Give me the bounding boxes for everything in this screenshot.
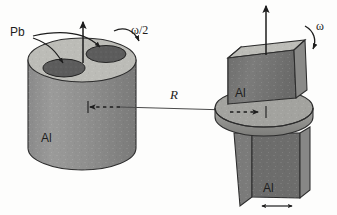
omega-label: ω	[316, 19, 324, 33]
right-rotation-arrow-icon	[305, 26, 315, 49]
omega-half-label: ω/2	[131, 23, 148, 37]
pb-label: Pb	[10, 25, 25, 39]
lower-block-shoulder	[300, 127, 310, 198]
right-assembly-group: Al Al ω	[215, 6, 324, 206]
upper-block-right-face	[294, 40, 307, 98]
upper-block-al-label: Al	[235, 86, 246, 100]
radius-label: R	[169, 87, 178, 102]
pb-inclusion-left-texture	[43, 59, 85, 77]
lower-block-front-texture	[252, 133, 300, 198]
left-cylinder-group: Pb Al ω/2	[10, 22, 148, 170]
technical-diagram: Pb Al ω/2 R	[0, 0, 337, 215]
pb-inclusion-right-texture	[86, 46, 126, 63]
lower-block-al-label: Al	[263, 181, 274, 195]
left-al-label: Al	[41, 131, 52, 145]
figure-canvas: Pb Al ω/2 R	[0, 0, 337, 215]
